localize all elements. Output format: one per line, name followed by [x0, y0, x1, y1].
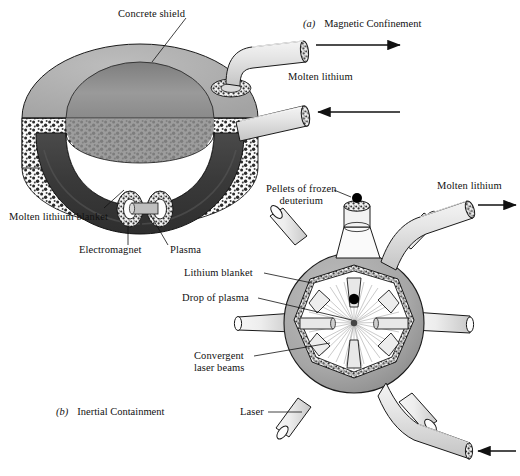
pellet-in-chamber — [349, 294, 359, 304]
convergent-line-2: laser beams — [194, 362, 244, 373]
label-molten-lithium-blanket: Molten lithium blanket — [9, 211, 108, 223]
panel-b-caption: (b)Inertial Containment — [56, 406, 164, 417]
panel-b-title: Inertial Containment — [77, 406, 164, 417]
fusion-reactor-illustration — [0, 0, 520, 476]
label-molten-lithium-a: Molten lithium — [288, 71, 353, 83]
figure-canvas: Concrete shield (a)Magnetic Confinement … — [0, 0, 520, 476]
panel-a-caption: (a)Magnetic Confinement — [303, 18, 421, 29]
label-electromagnet: Electromagnet — [79, 244, 142, 256]
pipe-outlet-b — [381, 200, 477, 270]
drop-of-plasma — [351, 320, 357, 326]
pellets-line-2: deuterium — [280, 195, 323, 206]
label-convergent-laser-beams: Convergent laser beams — [194, 350, 244, 374]
label-laser: Laser — [240, 406, 264, 418]
panel-b-inertial-containment — [234, 190, 516, 459]
label-pellets-of-frozen-deuterium: Pellets of frozen deuterium — [266, 183, 337, 207]
panel-a-title: Magnetic Confinement — [324, 18, 421, 29]
panel-b-marker: (b) — [56, 406, 68, 417]
label-drop-of-plasma: Drop of plasma — [182, 292, 249, 304]
pellet-of-frozen-deuterium — [352, 193, 362, 203]
shield-inner-bore — [66, 62, 214, 170]
label-plasma: Plasma — [170, 244, 201, 256]
label-molten-lithium-b: Molten lithium — [437, 180, 502, 192]
panel-a-marker: (a) — [303, 18, 315, 29]
label-concrete-shield: Concrete shield — [118, 8, 185, 20]
pellet-injector — [336, 201, 380, 258]
pellets-line-1: Pellets of frozen — [266, 183, 337, 194]
label-lithium-blanket: Lithium blanket — [184, 267, 253, 279]
convergent-line-1: Convergent — [194, 350, 244, 361]
plasma-tube — [132, 203, 158, 214]
